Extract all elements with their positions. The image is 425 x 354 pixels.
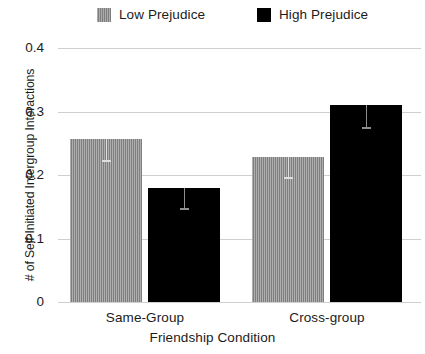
y-axis-tick-label: 0.2 [4, 168, 44, 182]
error-bar-cap [180, 208, 189, 210]
error-bar-cap [362, 127, 371, 129]
y-axis-tick-label: 0 [4, 295, 44, 309]
error-bar [106, 139, 107, 160]
x-axis-tick-label: Same-Group [75, 310, 215, 325]
y-axis-tick-label: 0.3 [4, 105, 44, 119]
error-bar [288, 157, 289, 177]
gridline [58, 302, 421, 303]
plot-area: 00.10.20.30.4Same-GroupCross-group [58, 48, 421, 302]
chart-legend: Low Prejudice High Prejudice [0, 0, 425, 32]
bar-same-group-low-prejudice [70, 139, 142, 302]
y-axis-tick-label: 0.1 [4, 232, 44, 246]
legend-label-low-prejudice: Low Prejudice [119, 8, 205, 22]
bar-cross-group-high-prejudice [330, 105, 402, 302]
x-axis-title: Friendship Condition [0, 330, 425, 345]
legend-item-low-prejudice: Low Prejudice [97, 6, 205, 24]
x-axis-tick-label: Cross-group [257, 310, 397, 325]
error-bar [366, 105, 367, 127]
gridline [58, 48, 421, 49]
legend-item-high-prejudice: High Prejudice [257, 6, 368, 24]
error-bar-cap [284, 177, 293, 179]
legend-swatch-low-prejudice-icon [97, 8, 111, 22]
y-axis-tick-label: 0.4 [4, 41, 44, 55]
bar-chart-figure: Low Prejudice High Prejudice # of Self-I… [0, 0, 425, 354]
legend-swatch-high-prejudice-icon [257, 8, 271, 22]
error-bar-cap [102, 160, 111, 162]
error-bar [184, 188, 185, 208]
legend-label-high-prejudice: High Prejudice [279, 8, 368, 22]
